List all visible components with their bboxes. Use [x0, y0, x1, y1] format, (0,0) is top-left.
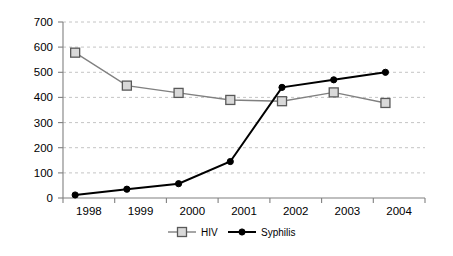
syphilis-point-1999	[124, 186, 130, 192]
legend: HIV Syphilis	[168, 227, 295, 238]
y-tick-label-100: 100	[34, 167, 53, 179]
y-tick-label-0: 0	[47, 192, 53, 204]
y-tick-label-700: 700	[34, 16, 53, 28]
hiv-point-2003	[329, 88, 338, 97]
syphilis-point-2001	[227, 158, 233, 164]
y-tick-label-300: 300	[34, 117, 53, 129]
hiv-point-1999	[122, 81, 131, 90]
syphilis-point-2000	[175, 181, 181, 187]
line-chart: 700 600 500 400 300 200 100 0 1998 1999 …	[0, 0, 453, 256]
y-tick-label-400: 400	[34, 91, 53, 103]
syphilis-point-1998	[72, 192, 78, 198]
hiv-point-2001	[226, 95, 235, 104]
syphilis-point-2003	[331, 77, 337, 83]
syphilis-line-path	[75, 72, 385, 195]
x-tick-label-1998: 1998	[76, 205, 102, 217]
x-axis: 1998 1999 2000 2001 2002 2003 2004	[63, 198, 425, 217]
series-syphilis	[72, 69, 388, 198]
chart-canvas: 700 600 500 400 300 200 100 0 1998 1999 …	[0, 0, 453, 256]
y-tick-label-600: 600	[34, 41, 53, 53]
hiv-point-2000	[174, 88, 183, 97]
hiv-point-2004	[381, 98, 390, 107]
syphilis-point-2004	[382, 69, 388, 75]
hiv-point-2002	[278, 97, 287, 106]
hiv-point-1998	[71, 48, 80, 57]
x-tick-label-2004: 2004	[386, 205, 412, 217]
legend-marker-hiv	[178, 228, 187, 237]
y-tick-label-500: 500	[34, 66, 53, 78]
syphilis-point-2002	[279, 84, 285, 90]
legend-item-hiv[interactable]: HIV	[168, 227, 218, 238]
x-tick-label-2003: 2003	[335, 205, 361, 217]
x-tick-label-1999: 1999	[128, 205, 154, 217]
legend-label-hiv: HIV	[201, 227, 218, 238]
legend-marker-syphilis	[239, 229, 245, 235]
x-tick-label-2000: 2000	[180, 205, 206, 217]
gridlines	[63, 22, 425, 173]
x-tick-label-2001: 2001	[231, 205, 257, 217]
y-tick-label-200: 200	[34, 142, 53, 154]
y-axis: 700 600 500 400 300 200 100 0	[34, 16, 63, 204]
legend-item-syphilis[interactable]: Syphilis	[228, 227, 295, 238]
legend-label-syphilis: Syphilis	[261, 227, 295, 238]
x-tick-label-2002: 2002	[283, 205, 309, 217]
